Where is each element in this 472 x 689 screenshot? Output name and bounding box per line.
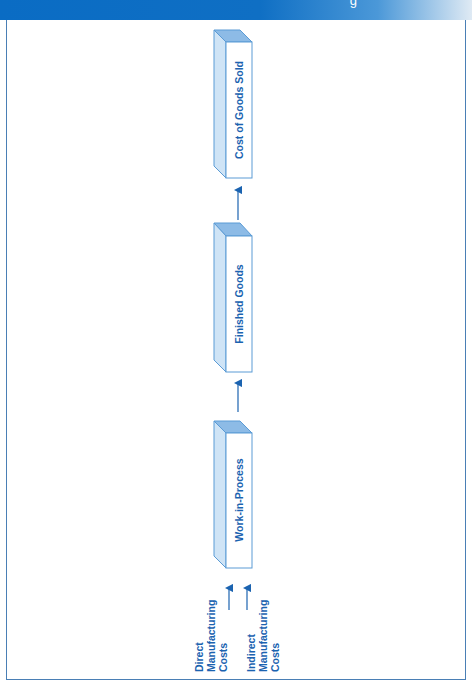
stage-box-work-in-process: Work-in-Process bbox=[214, 421, 252, 568]
svg-text:Costs: Costs bbox=[269, 643, 281, 672]
stage-box-finished-goods: Finished Goods bbox=[214, 223, 252, 372]
input-label-direct: Direct Manufacturing Costs bbox=[193, 600, 229, 672]
stage-label: Cost of Goods Sold bbox=[233, 61, 245, 159]
svg-text:Indirect: Indirect bbox=[245, 634, 257, 672]
svg-text:Costs: Costs bbox=[217, 643, 229, 672]
stage-box-cost-of-goods-sold: Cost of Goods Sold bbox=[214, 30, 252, 178]
stage-label: Finished Goods bbox=[233, 264, 245, 343]
flow-diagram: Cost of Goods Sold Finished Goods Work-i… bbox=[0, 0, 472, 689]
stage-label: Work-in-Process bbox=[233, 458, 245, 541]
svg-text:Manufacturing: Manufacturing bbox=[205, 600, 217, 672]
input-label-indirect: Indirect Manufacturing Costs bbox=[245, 600, 281, 672]
svg-text:Manufacturing: Manufacturing bbox=[257, 600, 269, 672]
svg-text:Direct: Direct bbox=[193, 642, 205, 672]
